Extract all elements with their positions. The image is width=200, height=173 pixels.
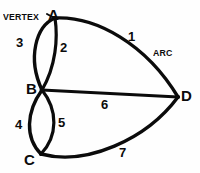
vertex-dot-C (39, 152, 43, 156)
edge-label-7: 7 (119, 146, 126, 159)
graph-diagram: VERTEX ARC A B C D 1 2 3 4 5 6 7 (0, 0, 200, 173)
edge-6-path (42, 90, 178, 97)
edge-label-5: 5 (58, 116, 65, 129)
edge-4-path (29, 90, 42, 154)
arc-annotation-label: ARC (153, 48, 172, 58)
vertex-dot-B (40, 88, 45, 93)
edge-label-6: 6 (101, 98, 108, 111)
edge-3-path (34, 18, 55, 90)
edge-label-2: 2 (60, 41, 67, 54)
vertex-label-d: D (181, 88, 192, 103)
vertex-label-a: A (48, 7, 59, 22)
vertex-label-b: B (26, 81, 37, 96)
vertex-annotation-label: VERTEX (3, 12, 39, 22)
vertex-dot-D (176, 95, 180, 99)
edge-label-1: 1 (128, 30, 135, 43)
vertex-label-c: C (24, 152, 35, 167)
edge-label-4: 4 (15, 118, 22, 131)
edge-label-3: 3 (16, 36, 23, 49)
edge-5-path (41, 90, 54, 154)
